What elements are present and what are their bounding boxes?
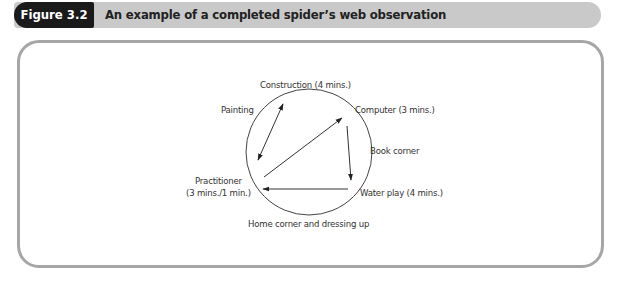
label-practitioner-time: (3 mins./1 min.) (186, 187, 251, 198)
arrow-practitioner-construction (258, 104, 283, 160)
spider-web-diagram (0, 0, 619, 282)
arrow-practitioner-computer (264, 118, 342, 177)
label-water-play: Water play (4 mins.) (360, 187, 443, 198)
label-computer: Computer (3 mins.) (355, 104, 435, 115)
label-painting: Painting (221, 104, 254, 115)
arrow-computer-waterplay (347, 126, 351, 180)
label-construction: Construction (4 mins.) (260, 79, 351, 90)
label-home-corner: Home corner and dressing up (248, 218, 369, 229)
label-practitioner: Practitioner (195, 175, 242, 186)
observation-circle (246, 89, 372, 215)
label-book-corner: Book corner (370, 145, 419, 156)
